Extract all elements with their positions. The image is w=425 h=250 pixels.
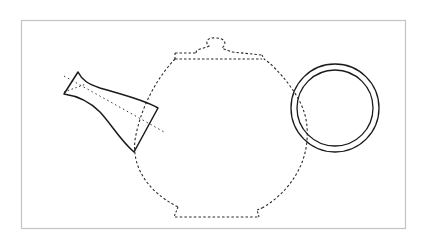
teapot-diagram: Teapot line drawing bbox=[0, 0, 425, 250]
body-left-outline bbox=[135, 59, 178, 207]
spout-outline bbox=[64, 72, 158, 152]
base-right-notch bbox=[257, 208, 262, 217]
base-left-notch bbox=[174, 207, 178, 217]
handle-ring-inner bbox=[297, 70, 373, 146]
lid-top-line bbox=[175, 52, 262, 55]
diagram-canvas bbox=[0, 0, 425, 250]
frame-border bbox=[22, 21, 406, 229]
lid-right-edge bbox=[262, 55, 264, 59]
handle-ring-outer bbox=[291, 64, 379, 152]
lid-knob bbox=[196, 38, 232, 53]
